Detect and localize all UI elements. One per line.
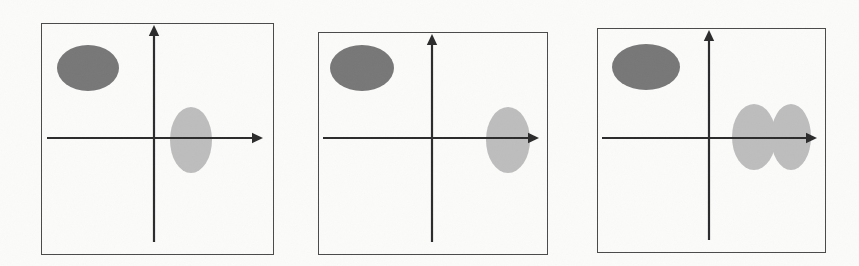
dark-blob bbox=[57, 45, 119, 91]
panel-plot-area bbox=[41, 23, 274, 255]
dark-blob bbox=[612, 44, 680, 90]
blob-group bbox=[612, 44, 811, 170]
x-axis-arrowhead-icon bbox=[528, 133, 539, 143]
panel-1 bbox=[41, 23, 274, 255]
panel-2 bbox=[318, 32, 548, 255]
blob-group bbox=[330, 45, 530, 173]
y-axis-arrowhead-icon bbox=[149, 25, 159, 36]
dark-blob bbox=[330, 45, 394, 91]
panel-plot-area bbox=[318, 32, 548, 255]
light-blob bbox=[170, 107, 212, 173]
panel-plot-area bbox=[597, 28, 826, 253]
x-axis-arrowhead-icon bbox=[252, 133, 263, 143]
blob-group bbox=[57, 45, 212, 173]
figure-container bbox=[0, 0, 859, 266]
panel-3 bbox=[597, 28, 826, 253]
light-blob bbox=[486, 107, 530, 173]
y-axis-arrowhead-icon bbox=[704, 30, 714, 41]
y-axis-arrowhead-icon bbox=[427, 34, 437, 45]
x-axis-arrowhead-icon bbox=[806, 133, 817, 143]
